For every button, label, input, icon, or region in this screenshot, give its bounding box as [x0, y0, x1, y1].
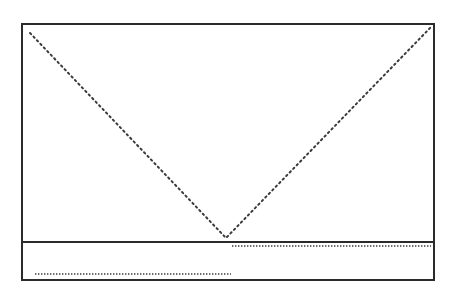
diagram-canvas	[0, 0, 452, 293]
background	[0, 0, 452, 293]
